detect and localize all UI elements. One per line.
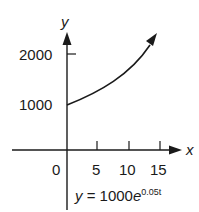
y-tick-label-2000: 2000 [19,47,52,62]
x-tick-label-0: 0 [52,162,60,177]
curve-arrow-icon [146,33,157,46]
y-axis-label: y [61,14,69,29]
y-tick-label-1000: 1000 [19,97,52,112]
x-tick-label-15: 15 [150,162,167,177]
exponential-curve [67,45,150,105]
equation-lhs: y [75,187,83,204]
x-tick-label-10: 10 [119,162,136,177]
equation-rhs: = 1000 [83,187,133,204]
x-axis-label: x [186,142,194,157]
y-axis-arrow-icon [63,32,72,45]
equation-exponent: 0.05t [141,187,161,197]
equation-annotation: y = 1000e0.05t [75,188,161,203]
x-axis-arrow-icon [169,146,182,155]
x-tick-label-5: 5 [92,162,100,177]
